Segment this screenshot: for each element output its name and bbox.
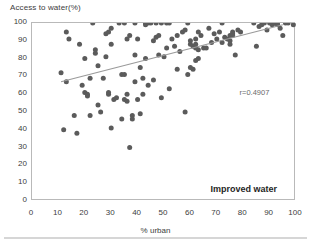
data-point <box>106 90 111 95</box>
data-point <box>154 23 159 26</box>
x-tick-label: 80 <box>230 209 254 217</box>
data-point <box>130 117 135 122</box>
data-point <box>98 110 103 115</box>
y-tick-label: 90 <box>1 36 27 44</box>
data-point <box>291 23 296 27</box>
data-point <box>77 42 82 47</box>
data-point <box>228 42 233 47</box>
y-tick-label: 60 <box>1 89 27 97</box>
data-point <box>88 113 93 118</box>
data-point <box>280 33 285 38</box>
data-point <box>125 99 130 104</box>
y-axis-title: Access to water(%) <box>10 3 81 12</box>
data-point <box>125 92 130 97</box>
data-point <box>212 31 217 36</box>
series-label: Improved water <box>211 184 278 194</box>
y-tick-label: 100 <box>1 18 27 26</box>
plot-canvas <box>32 23 296 201</box>
data-point <box>185 72 190 77</box>
data-point <box>61 127 66 132</box>
data-point <box>90 23 95 26</box>
y-tick-label: 80 <box>1 54 27 62</box>
data-point <box>140 76 145 81</box>
data-point <box>109 126 114 131</box>
data-point <box>66 37 71 42</box>
data-point <box>172 44 177 49</box>
data-point <box>191 67 196 72</box>
data-point <box>82 56 87 61</box>
x-axis-title: % urban <box>0 226 311 235</box>
data-point <box>64 29 69 34</box>
data-point <box>183 110 188 115</box>
x-tick-label: 50 <box>151 209 175 217</box>
data-point <box>59 70 64 75</box>
data-point <box>109 26 114 31</box>
data-point <box>127 145 132 150</box>
data-point <box>254 44 259 49</box>
y-tick-label: 20 <box>1 160 27 168</box>
data-point <box>198 33 203 38</box>
data-point <box>135 97 140 102</box>
x-tick-label: 100 <box>283 209 307 217</box>
data-point <box>138 111 143 116</box>
correlation-annotation: r=0.4907 <box>240 88 270 97</box>
x-tick-label: 30 <box>98 209 122 217</box>
y-tick-label: 0 <box>1 196 27 204</box>
data-point <box>135 37 140 42</box>
y-tick-label: 50 <box>1 107 27 115</box>
data-point <box>169 37 174 42</box>
data-point <box>103 54 108 59</box>
data-point <box>156 33 161 38</box>
data-point <box>146 83 151 88</box>
data-point <box>251 23 256 26</box>
x-tick-label: 90 <box>257 209 281 217</box>
data-point <box>85 93 90 98</box>
x-tick-label: 0 <box>19 209 43 217</box>
x-tick-label: 60 <box>177 209 201 217</box>
data-point <box>122 23 127 26</box>
plot-area <box>31 22 295 200</box>
x-tick-label: 40 <box>125 209 149 217</box>
data-point <box>175 67 180 72</box>
y-tick-label: 30 <box>1 143 27 151</box>
data-point <box>93 47 98 52</box>
data-point <box>183 28 188 33</box>
y-tick-label: 10 <box>1 178 27 186</box>
data-point <box>140 92 145 97</box>
data-point <box>101 76 106 81</box>
data-point <box>117 23 122 26</box>
data-point <box>175 33 180 38</box>
data-point <box>206 26 211 31</box>
data-point <box>88 76 93 81</box>
data-point <box>238 29 243 34</box>
data-point <box>138 65 143 70</box>
footer-divider <box>4 237 307 239</box>
data-point <box>159 95 164 100</box>
y-tick-label: 40 <box>1 125 27 133</box>
data-point <box>96 102 101 107</box>
data-point <box>109 42 114 47</box>
x-tick-label: 10 <box>45 209 69 217</box>
x-tick-label: 70 <box>204 209 228 217</box>
data-point <box>80 83 85 88</box>
data-point <box>72 113 77 118</box>
data-point <box>188 38 193 43</box>
data-point <box>217 29 222 34</box>
data-point <box>122 72 127 77</box>
data-point <box>220 23 225 26</box>
data-point <box>204 45 209 50</box>
y-tick-label: 70 <box>1 71 27 79</box>
data-point <box>127 33 132 38</box>
data-point <box>193 42 198 47</box>
data-point <box>119 117 124 122</box>
scatter-chart-figure: Access to water(%) 010203040506070809010… <box>0 0 311 243</box>
data-point <box>96 63 101 68</box>
data-point <box>132 53 137 58</box>
data-point <box>196 47 201 52</box>
data-point <box>185 23 190 26</box>
data-point <box>193 37 198 42</box>
data-points-layer <box>59 23 296 150</box>
data-point <box>196 56 201 61</box>
data-point <box>167 86 172 91</box>
data-point <box>233 53 238 58</box>
